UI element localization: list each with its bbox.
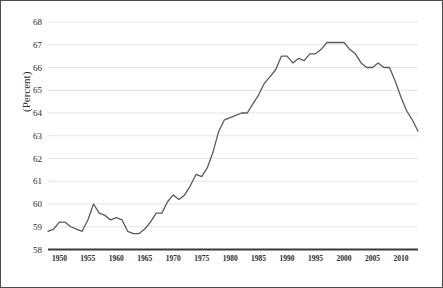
x-tick-label: 1975 (194, 254, 209, 263)
plot-area: 5859606162636465666768 19501955196019651… (1, 1, 442, 287)
y-tick-label: 59 (33, 222, 43, 232)
y-tick-label: 60 (33, 199, 43, 209)
x-tick-label: 1950 (52, 254, 67, 263)
y-axis-tick-labels: 5859606162636465666768 (33, 17, 43, 255)
y-tick-label: 63 (33, 131, 43, 141)
x-tick-label: 2010 (393, 254, 408, 263)
x-tick-label: 2005 (365, 254, 380, 263)
y-tick-label: 68 (33, 17, 43, 27)
y-tick-label: 61 (33, 176, 42, 186)
x-tick-label: 1990 (280, 254, 295, 263)
x-tick-label: 2000 (337, 254, 352, 263)
x-axis-tick-labels: 1950195519601965197019751980198519901995… (52, 254, 409, 263)
y-tick-label: 58 (33, 245, 43, 255)
y-axis-title: (Percent) (20, 94, 32, 112)
x-tick-label: 1955 (80, 254, 95, 263)
y-tick-label: 62 (33, 154, 42, 164)
line-chart-svg: 5859606162636465666768 19501955196019651… (1, 1, 443, 288)
x-tick-label: 1970 (166, 254, 181, 263)
data-series-line (48, 42, 418, 233)
x-tick-label: 1965 (137, 254, 152, 263)
chart-figure: 5859606162636465666768 19501955196019651… (0, 0, 443, 288)
y-tick-label: 65 (33, 85, 43, 95)
x-tick-label: 1960 (109, 254, 124, 263)
x-tick-label: 1980 (223, 254, 238, 263)
y-tick-label: 64 (33, 108, 43, 118)
x-tick-label: 1995 (308, 254, 323, 263)
x-tick-label: 1985 (251, 254, 266, 263)
y-tick-label: 67 (33, 40, 43, 50)
y-tick-label: 66 (33, 63, 43, 73)
gridlines (48, 22, 418, 227)
